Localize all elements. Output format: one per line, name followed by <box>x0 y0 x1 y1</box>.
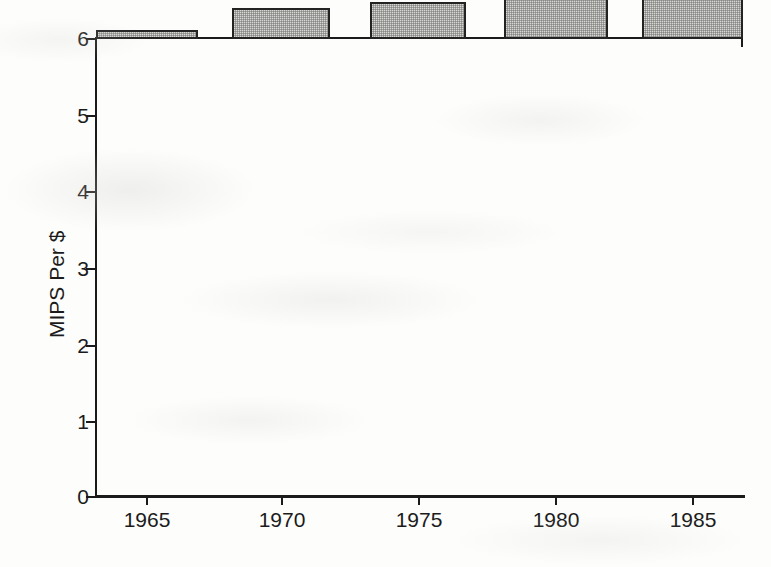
x-tick-label-1965: 1965 <box>124 509 171 530</box>
plot-area: 6 5 4 3 2 1 0 <box>95 37 743 497</box>
x-tick-label-1985: 1985 <box>670 509 717 530</box>
x-tick-mark-1970 <box>281 496 283 505</box>
x-tick-mark-1985 <box>692 496 694 505</box>
x-tick-label-1975: 1975 <box>396 509 443 530</box>
x-tick-label-1980: 1980 <box>533 509 580 530</box>
x-tick-label-1970: 1970 <box>259 509 306 530</box>
y-tick-label-3: 3 <box>77 258 89 279</box>
y-tick-label-6: 6 <box>77 28 89 49</box>
x-tick-mark-1980 <box>555 496 557 505</box>
y-axis-line <box>95 37 97 497</box>
bar-1965[interactable] <box>96 30 198 39</box>
bar-1970[interactable] <box>232 8 330 39</box>
bar-chart-figure: 6 5 4 3 2 1 0 <box>0 0 771 567</box>
bar-1975[interactable] <box>370 2 466 39</box>
y-axis-title: MIPS Per $ <box>46 231 67 338</box>
bar-1980[interactable] <box>504 0 608 39</box>
y-tick-label-4: 4 <box>77 181 89 202</box>
y-tick-label-1: 1 <box>77 411 89 432</box>
x-axis-line <box>95 495 745 498</box>
y-tick-label-5: 5 <box>77 104 89 125</box>
bar-1985[interactable] <box>642 0 743 39</box>
y-tick-label-2: 2 <box>77 334 89 355</box>
x-tick-mark-1975 <box>418 496 420 505</box>
x-tick-mark-1965 <box>146 496 148 505</box>
y-tick-label-0: 0 <box>77 486 89 507</box>
